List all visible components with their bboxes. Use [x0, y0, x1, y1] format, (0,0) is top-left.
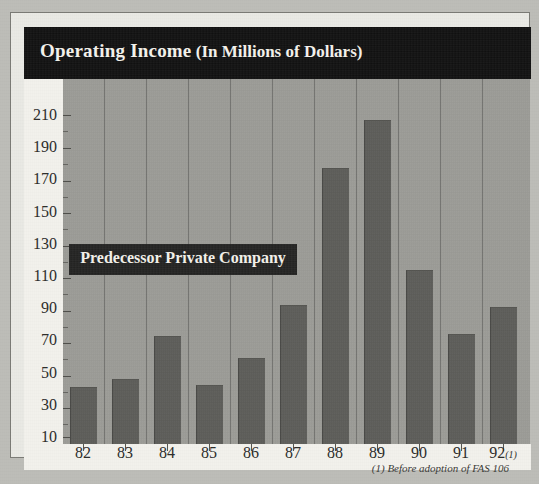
y-axis-tick-label: 210	[33, 107, 57, 123]
y-axis-tick-label: 110	[34, 268, 57, 284]
y-axis-label-strip: 2101901701501301109070503010	[24, 79, 63, 444]
y-tick-mark-minor	[63, 131, 68, 132]
y-tick-mark	[63, 181, 71, 182]
x-axis-tick-label: 86	[243, 444, 259, 462]
x-axis-tick-label: 84	[159, 444, 175, 462]
bar-91	[448, 334, 475, 444]
y-axis-tick-label: 10	[41, 429, 57, 445]
y-tick-mark	[63, 213, 71, 214]
gridline-vertical	[398, 79, 399, 444]
y-axis-tick-label: 150	[33, 204, 57, 220]
x-axis-tick-label: 82	[75, 444, 91, 462]
y-tick-mark	[63, 148, 71, 149]
figure-frame: Operating Income (In Millions of Dollars…	[10, 12, 530, 458]
x-axis-tick-label: 89	[369, 444, 385, 462]
bar-92	[490, 307, 517, 444]
bar-90	[406, 270, 433, 444]
y-tick-mark-minor	[63, 327, 68, 328]
bar-85	[196, 385, 223, 444]
y-axis-tick-label: 30	[41, 397, 57, 413]
y-axis-tick-label: 70	[41, 332, 57, 348]
bar-86	[238, 358, 265, 444]
x-axis-tick-label: 90	[411, 444, 427, 462]
footnote-text: (1) Before adoption of FAS 106	[372, 462, 509, 474]
y-tick-mark	[63, 115, 71, 116]
annotation-predecessor-private-company: Predecessor Private Company	[69, 244, 297, 275]
chart-title-main: Operating Income	[40, 40, 192, 61]
y-tick-mark-minor	[63, 262, 68, 263]
gridline-vertical	[482, 79, 483, 444]
x-axis-tick-label: 85	[201, 444, 217, 462]
y-axis-tick-label: 170	[33, 171, 57, 187]
x-axis-tick-label: 83	[117, 444, 133, 462]
y-axis-tick-label: 90	[41, 300, 57, 316]
bar-87	[280, 305, 307, 444]
y-tick-mark-minor	[63, 294, 68, 295]
gridline-vertical	[440, 79, 441, 444]
y-tick-mark-minor	[63, 164, 68, 165]
y-axis-tick-label: 190	[33, 139, 57, 155]
x-axis-tick-label: 92(1)	[489, 444, 517, 462]
chart-title-banner: Operating Income (In Millions of Dollars…	[24, 27, 531, 79]
y-tick-mark	[63, 311, 71, 312]
annotation-label: Predecessor Private Company	[69, 249, 297, 267]
y-tick-mark	[63, 376, 71, 377]
y-tick-mark-minor	[63, 229, 68, 230]
y-tick-mark-minor	[63, 424, 68, 425]
bar-83	[112, 379, 139, 444]
y-axis-tick-label: 130	[33, 236, 57, 252]
y-axis-tick-label: 50	[41, 365, 57, 381]
bar-88	[322, 168, 349, 444]
x-axis-tick-label: 88	[327, 444, 343, 462]
y-tick-mark-minor	[63, 359, 68, 360]
gridline-vertical	[314, 79, 315, 444]
chart-title-subtitle: (In Millions of Dollars)	[192, 42, 363, 61]
bar-82	[70, 387, 97, 444]
x-axis-tick-label: 91	[453, 444, 469, 462]
x-axis-tick-label: 87	[285, 444, 301, 462]
page-title: Operating Income (In Millions of Dollars…	[40, 40, 362, 62]
y-tick-mark	[63, 278, 71, 279]
bar-84	[154, 336, 181, 444]
bar-89	[364, 120, 391, 444]
y-tick-mark-minor	[63, 392, 68, 393]
y-tick-mark-minor	[63, 197, 68, 198]
y-tick-mark	[63, 343, 71, 344]
gridline-vertical	[356, 79, 357, 444]
